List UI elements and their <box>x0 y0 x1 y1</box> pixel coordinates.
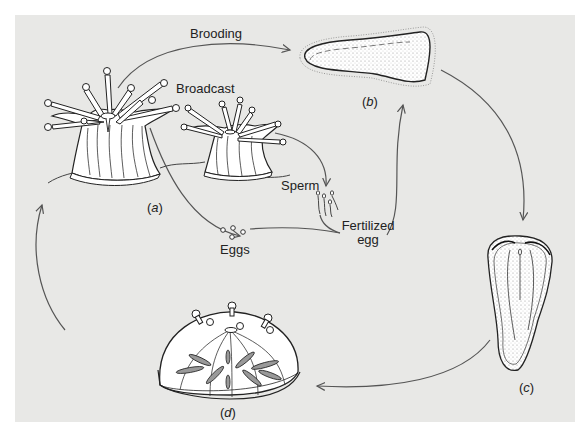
juvenile-to-adult-arrow <box>36 205 65 330</box>
sperm-cluster <box>316 191 338 217</box>
eggs-cluster <box>221 226 246 240</box>
fertilized-egg-label-line1: Fertilized <box>338 219 398 233</box>
stage-label-d: (d) <box>220 405 236 420</box>
eggs-label: Eggs <box>220 243 250 257</box>
stage-label-b: (b) <box>362 94 378 109</box>
larva-to-settling-arrow <box>441 70 524 220</box>
fertilized-to-larva-arrow <box>387 105 403 235</box>
life-cycle-illustration <box>0 0 588 442</box>
planula-larva <box>300 27 435 86</box>
eggs-to-fertilized-arrow <box>250 215 340 233</box>
settling-to-juvenile-arrow <box>317 340 490 387</box>
settling-larva <box>488 236 552 371</box>
stage-label-a: (a) <box>147 200 163 215</box>
adult-polyp-brooding <box>45 68 180 186</box>
adult-polyp-broadcast <box>181 97 286 181</box>
sperm-label: Sperm <box>281 179 319 193</box>
juvenile-polyp <box>158 302 300 399</box>
stage-label-c: (c) <box>519 380 534 395</box>
brooding-label: Brooding <box>190 27 242 41</box>
fertilized-egg-label-line2: egg <box>338 233 398 247</box>
fertilized-egg-label: Fertilized egg <box>338 219 398 248</box>
broadcast-label: Broadcast <box>176 82 235 96</box>
